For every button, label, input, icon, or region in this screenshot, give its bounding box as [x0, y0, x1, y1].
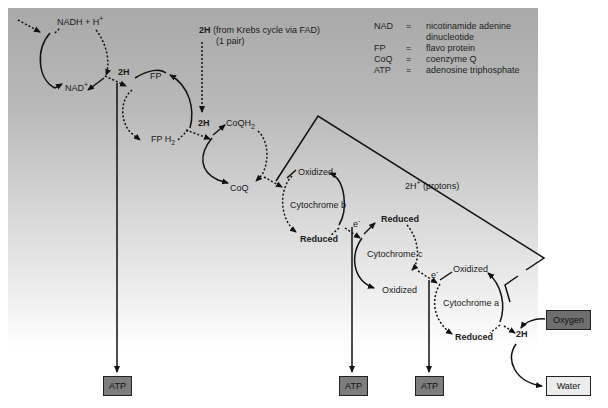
- cytb-solid-arc: [330, 173, 344, 225]
- fph2-label: FP H2: [151, 134, 175, 148]
- cytb-reduced-label: Reduced: [300, 234, 338, 244]
- legend: NAD = nicotinamide adeninedinucleotide F…: [374, 21, 546, 76]
- krebs-pair-label: (1 pair): [216, 36, 245, 46]
- nadh-label: NADH + H+: [57, 14, 103, 27]
- fp-solid-arc: [170, 75, 192, 128]
- oxygen-arrow: [521, 319, 545, 328]
- coq-to-cytb-arrow: [264, 177, 282, 187]
- nad-plus-label: NAD+: [65, 80, 88, 93]
- fp-2h-label: 2H: [198, 118, 210, 128]
- cytc-oxidized-label: Oxidized: [382, 285, 417, 295]
- fp-dashed-arc: [123, 90, 140, 140]
- coq-label: CoQ: [230, 183, 249, 193]
- atp-box-3: ATP: [415, 376, 444, 396]
- electron-transport-diagram: NADH + H+ NAD+ 2H 2H (from Krebs cycle v…: [0, 0, 608, 408]
- krebs-label: 2H (from Krebs cycle via FAD): [199, 25, 320, 35]
- oxygen-box: Oxygen: [546, 310, 591, 330]
- coq-dashed-arc: [256, 131, 267, 181]
- cytc-dashed-arc: [407, 225, 417, 270]
- cytb-oxidized-label: Oxidized: [298, 167, 333, 177]
- protons-label: 2H+ (protons): [405, 178, 459, 191]
- fp-to-coq-arrow: [186, 130, 210, 139]
- cytc-name-label: Cytochrome c: [367, 249, 423, 259]
- nad-solid-arc: [40, 33, 62, 88]
- nad-to-fp-arrow: [105, 76, 126, 86]
- legend-row-fp: FP = flavo protein: [374, 43, 546, 54]
- nad-to-nadplus-arrow: [88, 78, 104, 90]
- fp-label: FP: [150, 71, 162, 81]
- nadh-input-arrow: [18, 20, 40, 32]
- cyta-reduced-label: Reduced: [455, 332, 493, 342]
- proton-line: [276, 116, 544, 270]
- atp-box-1: ATP: [103, 376, 132, 396]
- coq-solid-arc: [203, 138, 228, 183]
- legend-row-nad: NAD = nicotinamide adeninedinucleotide: [374, 21, 546, 43]
- cyta-name-label: Cytochrome a: [443, 298, 499, 308]
- legend-row-atp: ATP = adenosine triphosphate: [374, 65, 546, 76]
- atp-box-2: ATP: [339, 376, 368, 396]
- legend-row-coq: CoQ = coenzyme Q: [374, 54, 546, 65]
- cyta-dashed-arc: [435, 284, 452, 334]
- nad-dashed-arc-down: [96, 30, 108, 75]
- cytb-name-label: Cytochrome b: [290, 200, 346, 210]
- nad-2h-label: 2H: [118, 67, 130, 77]
- cytc-solid-arc: [355, 238, 374, 288]
- cytc-reduced-label: Reduced: [381, 214, 419, 224]
- cytc-electron-label: e-: [431, 267, 438, 280]
- final-2h-label: 2H: [516, 329, 528, 339]
- water-arrow: [512, 344, 542, 386]
- coqh2-label: CoQH2: [226, 118, 255, 132]
- cyta-oxidized-label: Oxidized: [453, 264, 488, 274]
- cyta-to-2h-arrow: [504, 326, 515, 333]
- cytb-electron-label: e-: [353, 216, 360, 229]
- water-box: Water: [546, 376, 591, 396]
